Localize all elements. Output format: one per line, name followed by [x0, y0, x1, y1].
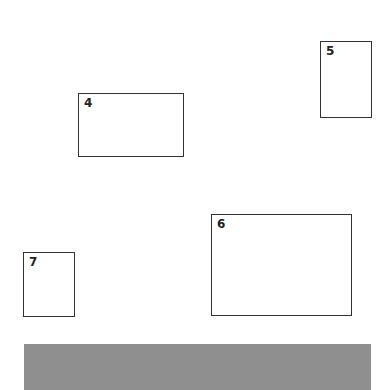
box-label: 4 [84, 97, 92, 109]
box-6: 6 [211, 214, 352, 316]
box-label: 7 [29, 256, 37, 268]
box-4: 4 [78, 93, 184, 157]
box-label: 5 [326, 45, 334, 57]
box-7: 7 [23, 252, 75, 317]
box-label: 6 [217, 218, 225, 230]
box-5: 5 [320, 41, 372, 118]
gray-bar [24, 344, 371, 390]
